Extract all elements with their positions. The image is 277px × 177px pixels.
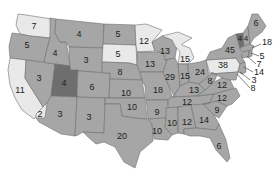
label-wa: 7	[31, 21, 36, 31]
label-id: 4	[52, 48, 57, 58]
label-ga: 14	[199, 115, 209, 125]
us-map: 7 5 11 3 2 4 4 3 4 6 3 3 5 5 8 10 10 20 …	[0, 0, 277, 177]
label-mi: 15	[180, 54, 190, 64]
label-ky: 13	[189, 85, 199, 95]
label-az-sw: 2	[37, 109, 42, 119]
label-al: 12	[182, 117, 192, 127]
label-la: 10	[152, 126, 162, 136]
label-or: 5	[24, 40, 29, 50]
label-me: 6	[253, 18, 258, 28]
label-ks: 10	[121, 88, 131, 98]
label-nd: 5	[115, 29, 120, 39]
label-sd: 5	[115, 49, 120, 59]
state-fl[interactable]	[184, 124, 230, 162]
label-fl: 6	[216, 141, 221, 151]
label-nc: 12	[217, 93, 227, 103]
label-sc: 9	[214, 105, 219, 115]
label-ny: 45	[225, 45, 235, 55]
leader-ct	[247, 56, 256, 64]
label-wy: 3	[83, 55, 88, 65]
label-oh: 24	[195, 67, 205, 77]
label-va: 12	[217, 80, 227, 90]
label-il: 29	[165, 72, 175, 82]
label-mn: 12	[139, 36, 149, 46]
label-tn: 12	[182, 97, 192, 107]
label-nh: 4	[244, 34, 249, 43]
label-pa: 38	[218, 60, 228, 70]
label-tx: 20	[117, 131, 127, 141]
label-wi: 13	[160, 46, 170, 56]
label-ok: 10	[127, 102, 137, 112]
label-mt: 4	[76, 29, 81, 39]
label-md: 8	[250, 83, 255, 93]
label-wv: 8	[207, 76, 212, 86]
label-nv: 3	[36, 73, 41, 83]
label-co: 6	[89, 82, 94, 92]
label-ut: 4	[61, 78, 66, 88]
label-ne: 8	[117, 67, 122, 77]
label-in: 15	[180, 71, 190, 81]
leader-md	[237, 74, 250, 88]
label-ia: 13	[145, 59, 155, 69]
label-az: 3	[57, 109, 62, 119]
label-vt: 4	[238, 34, 243, 43]
label-nm: 3	[86, 112, 91, 122]
label-ma: 18	[262, 37, 272, 47]
label-ca: 11	[15, 85, 24, 95]
label-mo: 18	[153, 85, 163, 95]
label-ar: 9	[154, 107, 159, 117]
label-ms: 10	[167, 118, 177, 128]
